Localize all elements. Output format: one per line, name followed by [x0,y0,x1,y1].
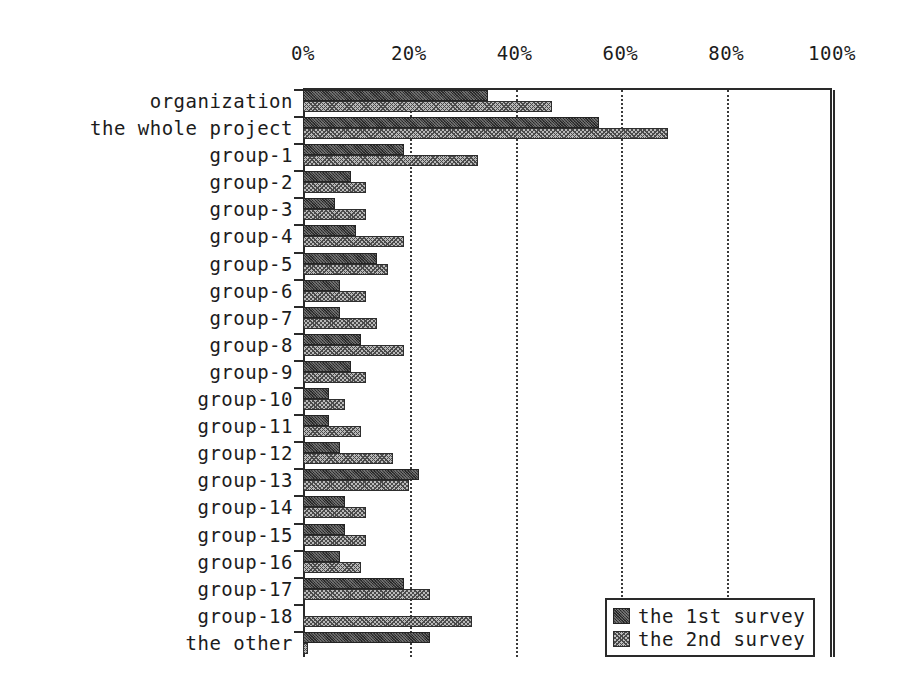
y-category-label: group-1 [209,144,293,166]
bar-group [303,386,832,413]
y-axis-category-labels: organizationthe whole projectgroup-1grou… [0,88,298,657]
bar-group [303,278,832,305]
x-tick-label: 100% [808,42,856,64]
y-category-label: group-16 [197,551,293,573]
bar-chart: 0%20%40%60%80%100% organizationthe whole… [0,0,897,696]
y-category-label: group-2 [209,171,293,193]
y-category-label: group-9 [209,361,293,383]
y-category-label: group-12 [197,442,293,464]
bar-1st-survey [303,551,340,562]
bar-1st-survey [303,144,404,155]
bar-2nd-survey [303,643,308,654]
bars-layer [303,88,832,657]
y-category-label: group-3 [209,198,293,220]
legend-item-2nd-survey: the 2nd survey [613,627,805,650]
bar-1st-survey [303,90,488,101]
bar-group [303,467,832,494]
bar-1st-survey [303,307,340,318]
y-category-label: group-10 [197,388,293,410]
bar-2nd-survey [303,318,377,329]
x-axis-tick-labels: 0%20%40%60%80%100% [0,42,897,68]
bar-1st-survey [303,171,351,182]
y-category-label: group-6 [209,280,293,302]
bar-1st-survey [303,524,345,535]
bar-group [303,440,832,467]
y-category-label: group-5 [209,253,293,275]
chart-legend: the 1st survey the 2nd survey [605,598,815,657]
bar-2nd-survey [303,616,472,627]
legend-item-1st-survey: the 1st survey [613,604,805,627]
x-tick-label: 40% [497,42,533,64]
bar-2nd-survey [303,480,409,491]
bar-group [303,142,832,169]
bar-2nd-survey [303,209,366,220]
bar-2nd-survey [303,155,478,166]
y-category-label: group-7 [209,307,293,329]
bar-group [303,223,832,250]
x-tick-label: 0% [291,42,315,64]
bar-group [303,522,832,549]
bar-2nd-survey [303,372,366,383]
y-category-label: the other [186,632,293,654]
bar-2nd-survey [303,345,404,356]
bar-1st-survey [303,442,340,453]
bar-2nd-survey [303,101,552,112]
bar-1st-survey [303,469,419,480]
bar-2nd-survey [303,291,366,302]
bar-group [303,115,832,142]
bar-2nd-survey [303,182,366,193]
bar-1st-survey [303,388,329,399]
bar-1st-survey [303,225,356,236]
bar-1st-survey [303,334,361,345]
bar-1st-survey [303,198,335,209]
bar-group [303,549,832,576]
bar-1st-survey [303,578,404,589]
legend-label-1st-survey: the 1st survey [638,605,805,627]
x-tick-label: 80% [708,42,744,64]
legend-label-2nd-survey: the 2nd survey [638,628,805,650]
y-category-label: group-18 [197,605,293,627]
bar-2nd-survey [303,589,430,600]
y-category-label: group-13 [197,469,293,491]
y-category-label: group-11 [197,415,293,437]
bar-group [303,359,832,386]
bar-2nd-survey [303,236,404,247]
legend-swatch-2nd-survey [613,631,630,647]
bar-2nd-survey [303,399,345,410]
x-tick-label: 60% [602,42,638,64]
bar-1st-survey [303,280,340,291]
bar-1st-survey [303,361,351,372]
bar-2nd-survey [303,507,366,518]
bar-group [303,196,832,223]
bar-group [303,251,832,278]
bar-2nd-survey [303,264,388,275]
bar-group [303,305,832,332]
y-category-label: group-14 [197,496,293,518]
bar-1st-survey [303,253,377,264]
y-category-label: group-4 [209,225,293,247]
bar-2nd-survey [303,453,393,464]
bar-1st-survey [303,117,599,128]
bar-group [303,169,832,196]
gridline [833,90,835,657]
bar-group [303,332,832,359]
bar-2nd-survey [303,562,361,573]
bar-group [303,494,832,521]
legend-swatch-1st-survey [613,608,630,624]
bar-1st-survey [303,415,329,426]
bar-2nd-survey [303,128,668,139]
bar-group [303,88,832,115]
bar-2nd-survey [303,535,366,546]
bar-group [303,413,832,440]
y-category-label: group-15 [197,524,293,546]
y-category-label: group-17 [197,578,293,600]
bar-1st-survey [303,632,430,643]
y-category-label: the whole project [90,117,293,139]
bar-1st-survey [303,496,345,507]
bar-2nd-survey [303,426,361,437]
x-tick-label: 20% [391,42,427,64]
y-category-label: organization [150,90,293,112]
y-category-label: group-8 [209,334,293,356]
